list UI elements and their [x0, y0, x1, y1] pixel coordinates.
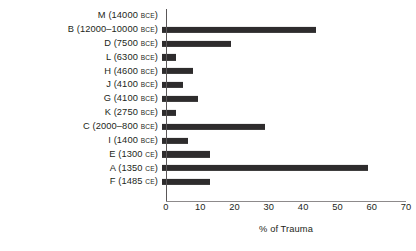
category-label-text: F (1485 [110, 176, 143, 186]
chart-row: A (1350 CE) [0, 161, 416, 175]
chart-row: M (14000 BCE) [0, 9, 416, 23]
category-label-era: BCE [141, 68, 155, 75]
category-label-paren: ) [155, 38, 158, 48]
category-label-era: BCE [141, 137, 155, 144]
bar-l [162, 54, 176, 60]
category-label-paren: ) [155, 149, 158, 159]
category-label: B (12000–10000 BCE) [0, 25, 162, 34]
category-label: H (4600 BCE) [0, 67, 162, 76]
bar-e [162, 151, 210, 157]
bar-track [162, 64, 416, 78]
category-label: M (14000 BCE) [0, 11, 162, 20]
category-label-era: BCE [141, 26, 155, 33]
bar-track [162, 106, 416, 120]
bar-track [162, 9, 416, 23]
x-axis-title: % of Trauma [166, 224, 406, 234]
category-label-era: BCE [141, 95, 155, 102]
y-axis-line [166, 9, 167, 201]
category-label-era: BCE [141, 54, 155, 61]
category-label: F (1485 CE) [0, 177, 162, 186]
x-tick-label: 60 [366, 203, 377, 212]
category-label-era: BCE [141, 123, 155, 130]
category-label-text: I (1400 [108, 135, 138, 145]
category-label-paren: ) [155, 66, 158, 76]
category-label-text: L (6300 [106, 52, 138, 62]
category-label: D (7500 BCE) [0, 39, 162, 48]
bar-track [162, 120, 416, 134]
x-axis-tick-labels: 010203040506070 [0, 203, 416, 217]
category-label-text: E (1300 [109, 149, 142, 159]
category-label-era: CE [145, 151, 155, 158]
bar-track [162, 78, 416, 92]
category-label-text: H (4600 [104, 66, 138, 76]
category-label-text: C (2000–800 [83, 121, 138, 131]
category-label-paren: ) [155, 135, 158, 145]
category-label: E (1300 CE) [0, 150, 162, 159]
x-tick-label: 10 [195, 203, 206, 212]
category-label: J (4100 BCE) [0, 80, 162, 89]
chart-row: G (4100 BCE) [0, 92, 416, 106]
bar-f [162, 179, 210, 185]
x-tick-label: 40 [298, 203, 309, 212]
chart-row: K (2750 BCE) [0, 106, 416, 120]
bar-g [162, 96, 198, 102]
category-label: I (1400 BCE) [0, 136, 162, 145]
chart-rows: M (14000 BCE)B (12000–10000 BCE)D (7500 … [0, 9, 416, 189]
category-label-paren: ) [155, 24, 158, 34]
chart-row: I (1400 BCE) [0, 134, 416, 148]
category-label-text: G (4100 [104, 93, 138, 103]
category-label-paren: ) [155, 107, 158, 117]
x-tick-label: 70 [401, 203, 412, 212]
category-label-text: A (1350 [110, 163, 143, 173]
chart-row: F (1485 CE) [0, 175, 416, 189]
x-tick-label: 50 [332, 203, 343, 212]
category-label-paren: ) [155, 121, 158, 131]
bar-d [162, 41, 231, 47]
category-label-paren: ) [155, 93, 158, 103]
category-label: K (2750 BCE) [0, 108, 162, 117]
category-label-text: D (7500 [104, 38, 138, 48]
category-label-paren: ) [155, 10, 158, 20]
category-label-paren: ) [155, 163, 158, 173]
category-label-text: M (14000 [98, 10, 138, 20]
bar-track [162, 134, 416, 148]
bar-track [162, 161, 416, 175]
bar-chart: M (14000 BCE)B (12000–10000 BCE)D (7500 … [0, 0, 416, 251]
category-label-era: BCE [141, 81, 155, 88]
chart-row: E (1300 CE) [0, 147, 416, 161]
bar-a [162, 165, 368, 171]
category-label-paren: ) [155, 79, 158, 89]
x-tick-label: 0 [163, 203, 168, 212]
category-label-era: BCE [141, 40, 155, 47]
category-label-era: BCE [141, 12, 155, 19]
category-label-era: CE [145, 178, 155, 185]
chart-row: L (6300 BCE) [0, 51, 416, 65]
category-label: L (6300 BCE) [0, 53, 162, 62]
category-label: G (4100 BCE) [0, 94, 162, 103]
category-label-paren: ) [155, 52, 158, 62]
bar-c [162, 124, 265, 130]
chart-row: H (4600 BCE) [0, 64, 416, 78]
category-label-paren: ) [155, 176, 158, 186]
category-label-text: B (12000–10000 [68, 24, 138, 34]
category-label-text: J (4100 [106, 79, 138, 89]
bar-track [162, 37, 416, 51]
bar-track [162, 23, 416, 37]
chart-row: D (7500 BCE) [0, 37, 416, 51]
category-label-era: BCE [141, 109, 155, 116]
bar-track [162, 51, 416, 65]
x-tick-label: 30 [264, 203, 275, 212]
category-label-era: CE [145, 165, 155, 172]
chart-row: C (2000–800 BCE) [0, 120, 416, 134]
category-label: C (2000–800 BCE) [0, 122, 162, 131]
bar-track [162, 175, 416, 189]
bar-track [162, 147, 416, 161]
bar-b [162, 27, 316, 33]
bar-k [162, 110, 176, 116]
category-label-text: K (2750 [105, 107, 138, 117]
bar-track [162, 92, 416, 106]
chart-row: B (12000–10000 BCE) [0, 23, 416, 37]
category-label: A (1350 CE) [0, 164, 162, 173]
x-tick-label: 20 [229, 203, 240, 212]
chart-row: J (4100 BCE) [0, 78, 416, 92]
